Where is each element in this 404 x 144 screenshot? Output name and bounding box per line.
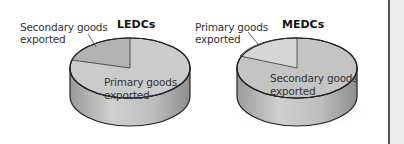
- pie-chart-figure: LEDCs Secondary goods exported Primary g…: [0, 0, 388, 144]
- ledcs-secondary-label-line2: exported: [20, 33, 66, 45]
- medcs-primary-label-line1: Primary goods: [195, 21, 268, 33]
- ledcs-secondary-label-line1: Secondary goods: [20, 21, 108, 33]
- medcs-secondary-label-line1: Secondary goods: [270, 72, 358, 84]
- medcs-secondary-label-line2: exported: [270, 85, 316, 97]
- ledcs-title: LEDCs: [117, 18, 155, 31]
- medcs-primary-leader-line: [248, 32, 258, 44]
- ledcs-primary-label-line2: exported: [104, 89, 150, 101]
- medcs-title: MEDCs: [282, 18, 324, 31]
- side-panel: [390, 0, 404, 144]
- medcs-primary-label-line2: exported: [195, 33, 241, 45]
- ledcs-primary-label-line1: Primary goods: [104, 76, 177, 88]
